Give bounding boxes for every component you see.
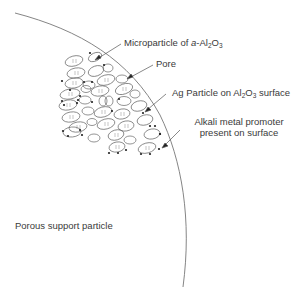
label-ag-o: O [245, 87, 252, 98]
label-microparticle: Microparticle of a-Al2O3 [124, 37, 223, 48]
label-microparticle-o: O [212, 37, 219, 48]
label-ag-particle: Ag Particle on Al2O3 surface [172, 87, 290, 98]
label-ag-text: Ag Particle on Al [172, 87, 242, 98]
label-support-particle: Porous support particle [15, 220, 113, 231]
label-microparticle-text: Microparticle of [124, 37, 191, 48]
label-alkali-line1: Alkali metal promoter [189, 116, 289, 127]
support-particle-boundary [15, 13, 186, 287]
label-microparticle-sub2: 3 [219, 42, 223, 49]
label-pore: Pore [156, 58, 176, 69]
label-microparticle-al: -Al [196, 37, 208, 48]
microparticle-cluster [58, 50, 160, 155]
label-alkali-line2: present on surface [189, 127, 289, 138]
label-alkali-promoter: Alkali metal promoter present on surface [189, 116, 289, 138]
label-ag-suffix: surface [256, 87, 290, 98]
